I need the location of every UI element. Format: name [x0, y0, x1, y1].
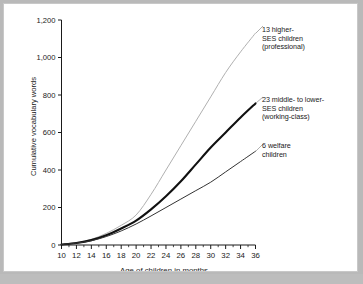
y-axis-tick-labels: 02004006008001,0001,200: [36, 16, 55, 250]
x-tick-label: 10: [57, 251, 66, 260]
x-axis-tick-labels: 1012141618202224262830323436: [57, 251, 260, 260]
y-tick-label: 200: [43, 203, 56, 212]
series-annotation-welfare: 6 welfare children: [262, 142, 291, 159]
x-tick-label: 18: [117, 251, 126, 260]
y-axis-ticks: [58, 20, 62, 245]
x-tick-label: 34: [236, 251, 245, 260]
series-annotation-middle-lower-ses: 23 middle- to lower- SES children (worki…: [262, 96, 324, 122]
x-tick-label: 30: [206, 251, 215, 260]
y-tick-label: 1,200: [36, 16, 55, 25]
x-axis-ticks: [62, 245, 256, 249]
x-axis-title: Age of children in months: [64, 266, 264, 272]
y-tick-label: 800: [43, 91, 56, 100]
y-tick-label: 600: [43, 128, 56, 137]
line-chart-plot: 1012141618202224262830323436 02004006008…: [4, 4, 358, 272]
x-tick-label: 28: [191, 251, 200, 260]
x-tick-label: 22: [147, 251, 156, 260]
x-tick-label: 16: [102, 251, 111, 260]
x-tick-label: 26: [177, 251, 186, 260]
series-line-0: [62, 33, 256, 244]
y-axis-title: Cumulative vocabulary words: [29, 52, 38, 202]
series-line-1: [62, 103, 256, 244]
x-tick-label: 14: [87, 251, 96, 260]
data-series-paths: [62, 26, 264, 244]
x-tick-label: 36: [251, 251, 260, 260]
series-line-2: [62, 151, 256, 244]
bottom-band: [0, 274, 363, 284]
y-tick-label: 400: [43, 166, 56, 175]
y-tick-label: 0: [51, 241, 55, 250]
chart-figure: 1012141618202224262830323436 02004006008…: [3, 3, 358, 272]
y-tick-label: 1,000: [36, 53, 55, 62]
x-tick-label: 24: [162, 251, 171, 260]
x-tick-label: 12: [72, 251, 81, 260]
x-tick-label: 32: [221, 251, 230, 260]
series-annotation-higher-ses: 13 higher- SES children (professional): [262, 26, 305, 52]
x-tick-label: 20: [132, 251, 141, 260]
